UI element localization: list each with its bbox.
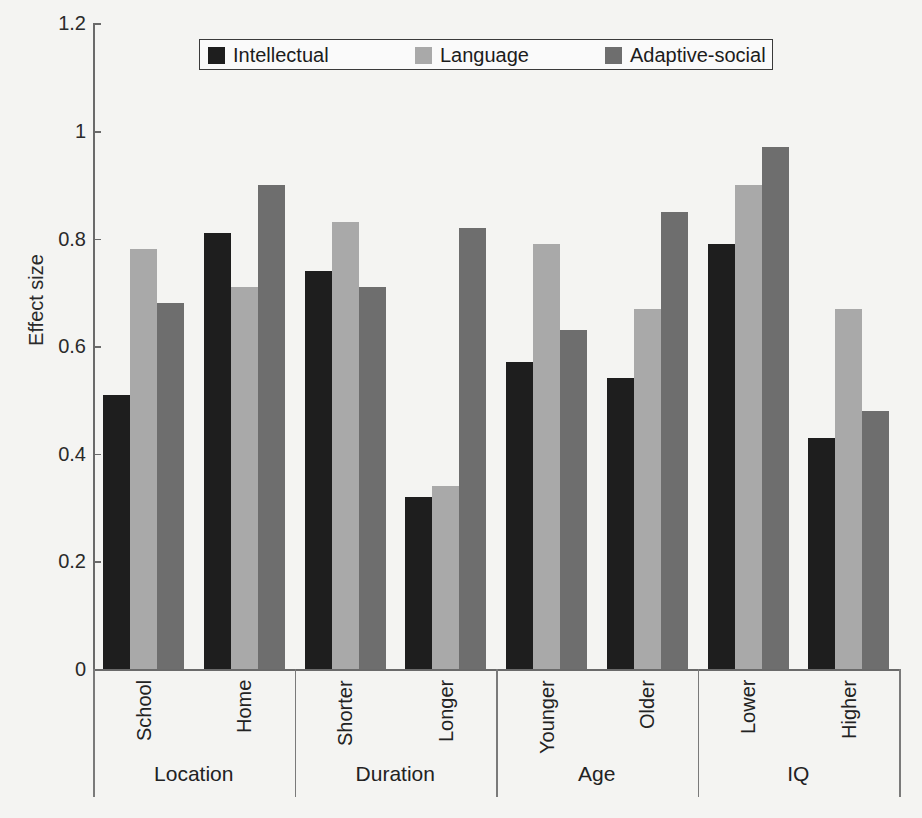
bar-higher-adaptive-social — [862, 411, 889, 669]
legend-item-intellectual: Intellectual — [208, 44, 329, 66]
y-tick-label: 0 — [26, 659, 86, 679]
bar-older-adaptive-social — [661, 212, 688, 669]
group-label-iq: IQ — [698, 762, 900, 786]
legend: Intellectual Language Adaptive-social — [199, 39, 773, 70]
bar-shorter-language — [332, 222, 359, 669]
legend-swatch-intellectual — [208, 47, 225, 64]
bar-younger-language — [533, 244, 560, 669]
bar-higher-intellectual — [808, 438, 835, 669]
y-tick — [93, 239, 101, 241]
category-label-older: Older — [636, 680, 659, 729]
legend-label: Adaptive-social — [630, 44, 766, 66]
category-label-home: Home — [233, 680, 256, 733]
category-label-higher: Higher — [838, 680, 861, 739]
y-tick-label: 0.6 — [26, 336, 86, 356]
group-divider — [899, 669, 901, 797]
y-tick-label: 1.2 — [26, 13, 86, 33]
bar-longer-intellectual — [405, 497, 432, 669]
bar-home-intellectual — [204, 233, 231, 669]
category-label-shorter: Shorter — [334, 680, 357, 746]
bar-younger-adaptive-social — [560, 330, 587, 669]
bar-older-language — [634, 309, 661, 669]
bar-school-intellectual — [103, 395, 130, 669]
bar-lower-adaptive-social — [762, 147, 789, 669]
bar-higher-language — [835, 309, 862, 669]
bar-younger-intellectual — [506, 362, 533, 669]
bar-lower-intellectual — [708, 244, 735, 669]
bar-home-language — [231, 287, 258, 669]
y-tick — [93, 131, 101, 133]
group-label-location: Location — [93, 762, 295, 786]
legend-item-adaptive-social: Adaptive-social — [605, 44, 766, 66]
y-tick — [93, 561, 101, 563]
bar-longer-adaptive-social — [459, 228, 486, 669]
category-label-lower: Lower — [737, 680, 760, 734]
legend-item-language: Language — [415, 44, 529, 66]
group-label-duration: Duration — [295, 762, 497, 786]
bar-school-language — [130, 249, 157, 669]
y-tick-label: 0.4 — [26, 444, 86, 464]
bar-lower-language — [735, 185, 762, 669]
category-label-longer: Longer — [435, 680, 458, 742]
y-tick — [93, 23, 101, 25]
y-axis-title: Effect size — [25, 254, 48, 346]
category-label-younger: Younger — [536, 680, 559, 754]
bar-school-adaptive-social — [157, 303, 184, 669]
bar-shorter-adaptive-social — [359, 287, 386, 669]
group-label-age: Age — [496, 762, 698, 786]
bar-home-adaptive-social — [258, 185, 285, 669]
bar-longer-language — [432, 486, 459, 669]
y-tick — [93, 346, 101, 348]
legend-label: Intellectual — [233, 44, 329, 66]
legend-label: Language — [440, 44, 529, 66]
y-tick-label: 0.2 — [26, 551, 86, 571]
y-tick-label: 1 — [26, 121, 86, 141]
legend-swatch-language — [415, 47, 432, 64]
bar-shorter-intellectual — [305, 271, 332, 669]
category-label-school: School — [133, 680, 156, 741]
legend-swatch-adaptive-social — [605, 47, 622, 64]
y-tick-label: 0.8 — [26, 229, 86, 249]
y-tick — [93, 454, 101, 456]
bar-chart: Effect size 00.20.40.60.811.2 SchoolHome… — [0, 0, 922, 818]
bar-older-intellectual — [607, 378, 634, 669]
